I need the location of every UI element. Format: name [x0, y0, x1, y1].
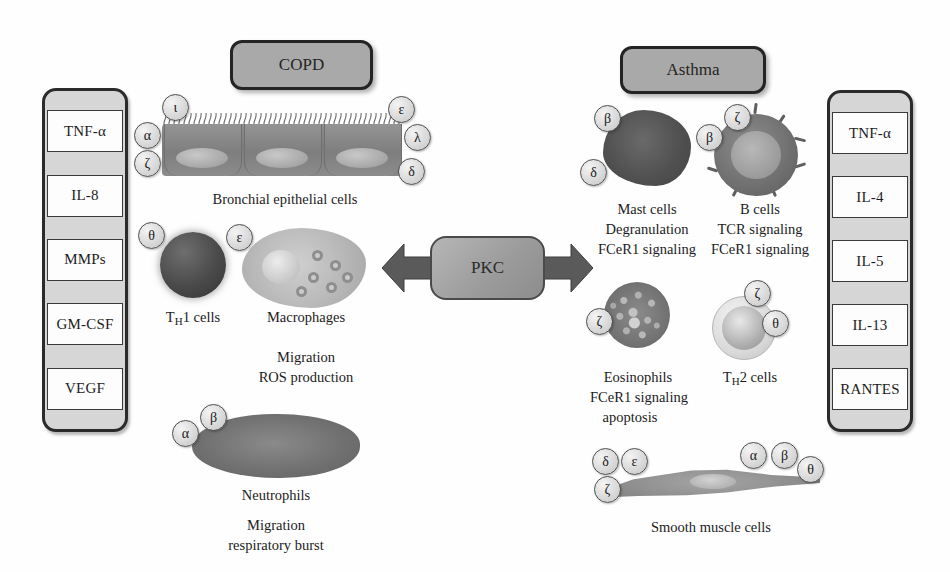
right-mediator-panel: TNF-α IL-4 IL-5 IL-13 RANTES [827, 90, 913, 432]
badge-neutrophil-beta: β [200, 404, 227, 431]
macrophage-cell [242, 228, 366, 308]
caption-mast-cells: Mast cells [592, 200, 702, 219]
caption-neutrophil-function-1: Migration [216, 516, 336, 535]
caption-macrophage-function-1: Migration [248, 348, 364, 367]
pkc-node: PKC [430, 236, 545, 300]
epithelial-nucleus [336, 148, 388, 168]
figure-canvas: TNF-α IL-8 MMPs GM-CSF VEGF TNF-α IL-4 I… [0, 0, 950, 572]
caption-mast-function-1: Degranulation [580, 220, 714, 239]
arrow-right-icon [541, 238, 593, 298]
macrophage-vacuole [342, 272, 353, 283]
badge-epithelial-epsilon: ε [388, 96, 415, 123]
caption-macrophage-function-2: ROS production [240, 368, 372, 387]
badge-smc-theta: θ [797, 456, 824, 483]
caption-th2-cells: TH2 cells [698, 368, 802, 389]
bronchial-epithelium [162, 112, 402, 180]
badge-mast-beta: β [594, 105, 621, 132]
caption-neutrophil-function-2: respiratory burst [200, 536, 352, 555]
b-cell-spike [753, 103, 758, 114]
macrophage-vacuole [326, 282, 337, 293]
caption-b-cells: B cells [714, 200, 806, 219]
badge-bcell-beta: β [696, 124, 723, 151]
caption-th1-cells: TH1 cells [140, 308, 246, 329]
caption-eosinophil-function-2: apoptosis [584, 408, 676, 427]
epithelial-nucleus [256, 148, 308, 168]
asthma-title-box: Asthma [620, 46, 766, 94]
caption-neutrophils: Neutrophils [216, 486, 336, 505]
badge-neutrophil-alpha: α [172, 420, 199, 447]
mediator-chip-il4: IL-4 [832, 176, 908, 218]
badge-epithelial-delta: δ [398, 158, 425, 185]
mediator-chip-il13: IL-13 [832, 304, 908, 346]
mediator-chip-vegf: VEGF [47, 368, 123, 410]
caption-macrophages: Macrophages [248, 308, 364, 327]
th1-label-post: 1 cells [183, 309, 220, 325]
copd-title-box: COPD [230, 40, 373, 90]
caption-smooth-muscle-cells: Smooth muscle cells [606, 518, 816, 537]
smooth-muscle-nucleus [690, 474, 736, 489]
mediator-chip-rantes: RANTES [832, 368, 908, 410]
th2-label-post: 2 cells [740, 369, 777, 385]
caption-bronchial-epithelial-cells: Bronchial epithelial cells [180, 190, 390, 209]
caption-bcell-function-1: TCR signaling [702, 220, 818, 239]
badge-eosinophil-zeta: ζ [586, 308, 613, 335]
caption-eosinophil-function-1: FCeR1 signaling [578, 388, 700, 407]
badge-mast-delta: δ [580, 159, 607, 186]
macrophage-vacuole [308, 272, 319, 283]
caption-eosinophils: Eosinophils [588, 368, 688, 387]
macrophage-vacuole [312, 250, 323, 261]
th1-cell [160, 232, 226, 298]
badge-epithelial-lambda: λ [404, 124, 431, 151]
badge-th1-theta: θ [138, 222, 165, 249]
epithelial-nucleus [176, 148, 228, 168]
mediator-chip-il8: IL-8 [47, 175, 123, 217]
mediator-chip-gmcsf: GM-CSF [47, 303, 123, 345]
macrophage-vacuole [330, 260, 341, 271]
caption-bcell-function-2: FCeR1 signaling [692, 240, 828, 259]
mediator-chip-tnfa-right: TNF-α [832, 112, 908, 154]
macrophage-vacuole [296, 286, 307, 297]
badge-smc-delta: δ [592, 448, 619, 475]
badge-bcell-zeta: ζ [724, 104, 751, 131]
eosinophil-cell [604, 282, 670, 348]
mediator-chip-mmps: MMPs [47, 239, 123, 281]
mediator-chip-il5: IL-5 [832, 240, 908, 282]
macrophage-nucleus [262, 250, 300, 284]
th1-label-pre: T [166, 309, 175, 325]
badge-epithelial-iota: ι [162, 94, 189, 121]
badge-macrophage-epsilon: ε [226, 224, 253, 251]
badge-smc-zeta: ζ [594, 476, 621, 503]
th2-label-sub: H [732, 375, 740, 387]
left-mediator-panel: TNF-α IL-8 MMPs GM-CSF VEGF [42, 88, 128, 432]
badge-smc-beta: β [771, 442, 798, 469]
badge-epithelial-alpha: α [134, 122, 161, 149]
th2-nucleus [722, 306, 766, 350]
badge-epithelial-zeta: ζ [134, 150, 161, 177]
badge-smc-alpha: α [740, 442, 767, 469]
badge-th2-theta: θ [762, 310, 789, 337]
b-cell-nucleus [731, 131, 781, 179]
th2-label-pre: T [723, 369, 732, 385]
badge-th2-zeta: ζ [744, 280, 771, 307]
badge-smc-epsilon: ε [621, 448, 648, 475]
th1-label-sub: H [175, 315, 183, 327]
arrow-left-icon [382, 238, 434, 298]
mediator-chip-tnfa-left: TNF-α [47, 110, 123, 152]
